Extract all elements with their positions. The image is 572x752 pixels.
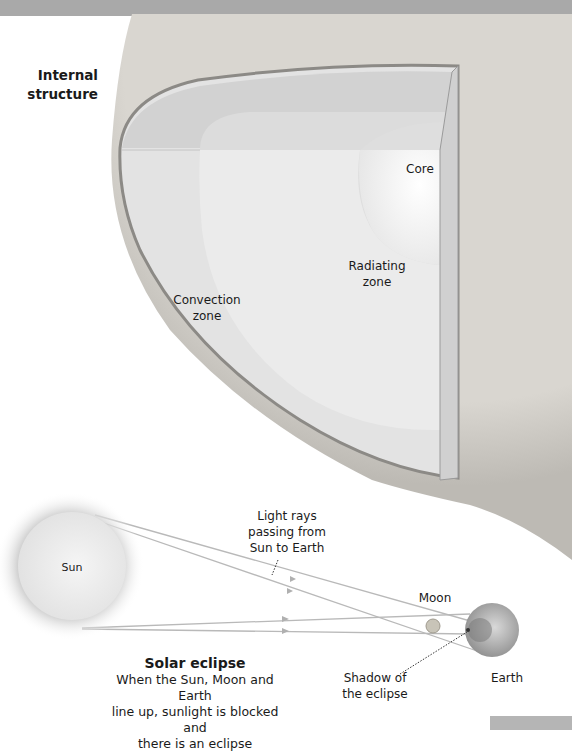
light-rays-line-1: Light rays [242,508,332,524]
section-title: Internal structure [20,66,98,104]
radiating-zone-label: Radiating zone [342,258,412,290]
moon-body [426,619,440,633]
convection-zone-label: Convection zone [168,292,246,324]
shadow-line-1: Shadow of [335,670,415,686]
core-label: Core [395,161,445,177]
moon-label: Moon [410,590,460,606]
caption-title: Solar eclipse [100,655,290,672]
shadow-annotation: Shadow of the eclipse [335,670,415,702]
sun-label: Sun [52,560,92,576]
caption-line-2: line up, sunlight is blocked and [100,704,290,736]
rays-leader-line [272,560,278,575]
light-rays-annotation: Light rays passing from Sun to Earth [242,508,332,556]
shadow-line-2: the eclipse [335,686,415,702]
earth-body [465,603,519,657]
page-corner-tab [490,716,572,730]
eclipse-caption: Solar eclipse When the Sun, Moon and Ear… [100,655,290,752]
caption-line-3: there is an eclipse [100,736,290,752]
earth-label: Earth [482,670,532,686]
light-rays-line-3: Sun to Earth [242,540,332,556]
shadow-leader-line [400,632,467,674]
caption-line-1: When the Sun, Moon and Earth [100,672,290,704]
light-rays-line-2: passing from [242,524,332,540]
